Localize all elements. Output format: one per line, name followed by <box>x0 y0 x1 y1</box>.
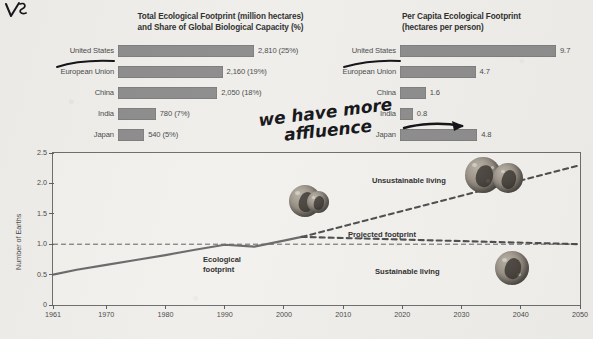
bar-rect <box>118 108 156 120</box>
bar-rect <box>400 129 477 141</box>
x-axis-tick-label: 1970 <box>92 310 120 319</box>
bar-row: United States9.7 <box>330 44 570 57</box>
y-axis-tick <box>49 244 54 245</box>
bar-label: Japan <box>0 130 114 139</box>
bar-rect <box>400 66 476 78</box>
bar-value: 2,050 (18%) <box>221 88 261 97</box>
bar-label: United States <box>330 46 396 55</box>
bar-row: European Union4.7 <box>330 65 490 78</box>
bar-rect <box>118 66 223 78</box>
y-axis-tick-label: 2.0 <box>23 178 47 187</box>
y-axis-tick-label: 1.5 <box>23 209 47 218</box>
bar-label: European Union <box>330 67 396 76</box>
bar-rect <box>118 45 254 57</box>
per-capita-chart-title: Per Capita Ecological Footprint (hectare… <box>402 12 592 33</box>
x-axis-tick <box>402 305 403 309</box>
x-axis-tick-label: 1961 <box>39 310 67 319</box>
per-capita-ecological-footprint-chart: Per Capita Ecological Footprint (hectare… <box>330 0 593 148</box>
bar-value: 4.7 <box>480 67 490 76</box>
bar-label: India <box>330 109 396 118</box>
x-axis-tick-label: 2010 <box>329 310 357 319</box>
globe-icon-sustainable <box>495 251 529 285</box>
x-axis-tick-label: 2030 <box>448 310 476 319</box>
per-capita-chart-title-line1: Per Capita Ecological Footprint <box>402 12 592 23</box>
y-axis-tick <box>49 183 54 184</box>
total-ecological-footprint-chart: Total Ecological Footprint (million hect… <box>0 0 330 148</box>
y-axis-tick <box>49 153 54 154</box>
x-axis-tick-label: 2020 <box>388 310 416 319</box>
y-axis-tick-label: 0 <box>23 300 47 309</box>
globe-icon-current-b <box>307 191 329 213</box>
bar-value: 4.8 <box>481 130 491 139</box>
y-axis-tick-label: 1.0 <box>23 239 47 248</box>
y-axis-tick-label: 2.5 <box>23 148 47 157</box>
x-axis-tick <box>343 305 344 309</box>
bar-rect <box>400 108 413 120</box>
label-ecological-footprint-line2: footprint <box>203 265 241 275</box>
bar-value: 2,160 (19%) <box>227 67 267 76</box>
x-axis-tick-label: 2000 <box>270 310 298 319</box>
bar-row: European Union2,160 (19%) <box>0 65 267 78</box>
bar-value: 0.8 <box>417 109 427 118</box>
total-chart-title: Total Ecological Footprint (million hect… <box>118 12 323 33</box>
total-chart-title-line2: and Share of Global Biological Capacity … <box>118 23 323 34</box>
bar-label: India <box>0 109 114 118</box>
label-projected-footprint: Projected footprint <box>348 230 416 240</box>
ecological-footprint-line <box>53 237 302 275</box>
total-chart-title-line1: Total Ecological Footprint (million hect… <box>118 12 323 23</box>
y-axis-tick-label: 0.5 <box>23 270 47 279</box>
bar-label: China <box>330 88 396 97</box>
label-ecological-footprint: Ecological footprint <box>203 255 241 274</box>
bar-rect <box>400 87 426 99</box>
bar-value: 9.7 <box>560 46 570 55</box>
x-axis-tick <box>283 305 284 309</box>
x-axis-tick-label: 1990 <box>211 310 239 319</box>
per-capita-chart-title-line2: (hectares per person) <box>402 23 592 34</box>
x-axis-tick <box>106 305 107 309</box>
y-axis-tick <box>49 274 54 275</box>
bar-row: China2,050 (18%) <box>0 86 261 99</box>
bar-value: 780 (7%) <box>160 109 190 118</box>
bar-label: United States <box>0 46 114 55</box>
label-ecological-footprint-line1: Ecological <box>203 255 241 265</box>
x-axis-tick <box>580 305 581 309</box>
bar-row: China1.6 <box>330 86 440 99</box>
x-axis-tick-label: 2040 <box>507 310 535 319</box>
label-unsustainable-living: Unsustainable living <box>372 176 446 186</box>
x-axis-tick <box>224 305 225 309</box>
bar-value: 1.6 <box>430 88 440 97</box>
bar-value: 540 (5%) <box>148 130 178 139</box>
bar-value: 2,810 (25%) <box>258 46 298 55</box>
bar-rect <box>118 129 144 141</box>
bar-row: India780 (7%) <box>0 107 190 120</box>
bar-rect <box>400 45 556 57</box>
ecological-footprint-line-chart: Ecological footprint Unsustainable livin… <box>52 152 581 306</box>
bar-row: Japan540 (5%) <box>0 128 178 141</box>
bar-row: Japan4.8 <box>330 128 491 141</box>
sustainable-living-line <box>302 237 580 244</box>
x-axis-tick <box>520 305 521 309</box>
x-axis-tick <box>461 305 462 309</box>
bar-label: Japan <box>330 130 396 139</box>
bar-rect <box>118 87 217 99</box>
globe-icon-unsustainable-b <box>493 163 523 193</box>
y-axis-tick <box>49 213 54 214</box>
label-sustainable-living: Sustainable living <box>375 267 440 277</box>
bar-row: India0.8 <box>330 107 427 120</box>
bar-row: United States2,810 (25%) <box>0 44 298 57</box>
bar-label: European Union <box>0 67 114 76</box>
x-axis-tick-label: 1980 <box>152 310 180 319</box>
bar-label: China <box>0 88 114 97</box>
x-axis-tick <box>165 305 166 309</box>
x-axis-tick <box>53 305 54 309</box>
x-axis-tick-label: 2050 <box>566 310 593 319</box>
y-axis-title: Number of Earths <box>14 214 23 270</box>
